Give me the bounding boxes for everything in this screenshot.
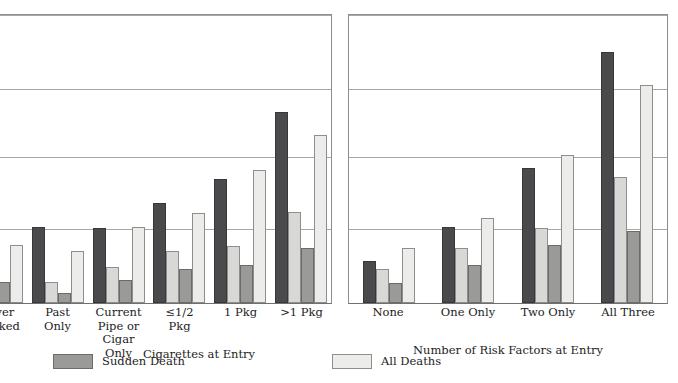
bar-group	[88, 15, 149, 303]
x-axis-tick-label: None	[348, 306, 428, 320]
bar	[153, 203, 166, 303]
bar	[640, 85, 653, 303]
bar	[314, 135, 327, 303]
bar	[227, 246, 240, 303]
bar	[71, 251, 84, 303]
bar-group	[349, 15, 429, 303]
bar	[275, 112, 288, 303]
bar	[166, 251, 179, 303]
bar	[301, 248, 314, 303]
bar	[253, 170, 266, 303]
bar	[376, 269, 389, 303]
x-axis-tick-label: Never Smoked	[0, 306, 27, 360]
bar	[455, 248, 468, 303]
bar-groups-right	[349, 15, 667, 303]
bar-group	[270, 15, 331, 303]
bar	[601, 52, 614, 303]
bar-group	[0, 15, 28, 303]
legend-item-label: All Deaths	[381, 354, 441, 368]
bar	[288, 212, 301, 303]
bar-group	[429, 15, 509, 303]
bar	[522, 168, 535, 303]
legend-item-all-deaths: All Deaths	[332, 354, 441, 369]
bar-groups-left	[0, 15, 331, 303]
bar-group	[28, 15, 89, 303]
bar	[363, 261, 376, 303]
bar	[58, 293, 71, 303]
bar-group	[210, 15, 271, 303]
bar	[214, 179, 227, 303]
bar	[45, 282, 58, 303]
figure: Never SmokedPast OnlyCurrent Pipe or Cig…	[0, 0, 678, 383]
bar	[561, 155, 574, 303]
bar	[535, 228, 548, 303]
x-axis-labels-right: NoneOne OnlyTwo OnlyAll Three	[348, 306, 668, 320]
bar	[481, 218, 494, 303]
legend-swatch-icon	[53, 354, 93, 369]
bar	[240, 265, 253, 303]
bar	[106, 267, 119, 303]
legend-item-label: Sudden Death	[102, 354, 185, 368]
legend-swatch-icon	[332, 354, 372, 369]
bar	[0, 282, 10, 303]
plot-area-right	[348, 14, 668, 304]
x-axis-tick-label: One Only	[428, 306, 508, 320]
bar	[192, 213, 205, 303]
bar	[627, 231, 640, 303]
bar	[402, 248, 415, 303]
plot-area-left	[0, 14, 332, 304]
bar	[93, 228, 106, 303]
bar	[389, 283, 402, 303]
bar	[179, 269, 192, 303]
bar-group	[588, 15, 668, 303]
x-axis-tick-label: All Three	[588, 306, 668, 320]
bar-group	[508, 15, 588, 303]
bar	[614, 177, 627, 303]
bar	[119, 280, 132, 303]
bar	[10, 245, 23, 303]
bar	[32, 227, 45, 303]
bar	[442, 227, 455, 303]
bar	[468, 265, 481, 303]
legend-item-sudden-death: Sudden Death	[53, 354, 185, 369]
bar	[548, 245, 561, 303]
x-axis-tick-label: Two Only	[508, 306, 588, 320]
bar-group	[149, 15, 210, 303]
bar	[132, 227, 145, 303]
